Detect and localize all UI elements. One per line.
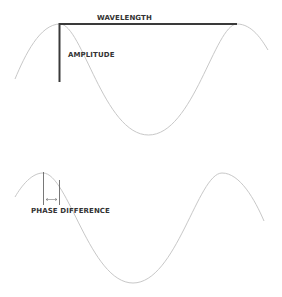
amplitude-label: AMPLITUDE bbox=[68, 51, 115, 59]
phase-arrow-icon bbox=[46, 198, 57, 200]
bottom-sine-wave bbox=[15, 173, 264, 283]
phase-difference-label: PHASE DIFFERENCE bbox=[31, 207, 110, 215]
wave-diagram bbox=[0, 0, 282, 297]
top-sine-wave bbox=[15, 24, 268, 135]
wavelength-label: WAVELENGTH bbox=[97, 14, 152, 22]
